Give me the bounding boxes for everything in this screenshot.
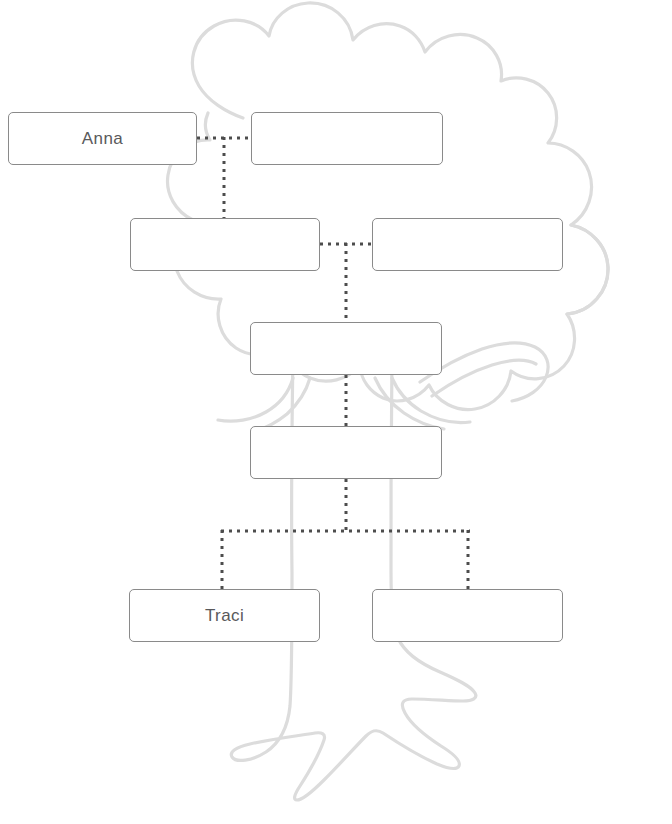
tree-branch-3-icon bbox=[392, 378, 470, 423]
name-box-gen2-right[interactable] bbox=[372, 218, 563, 271]
tree-branch-4-icon bbox=[375, 378, 444, 429]
name-box-label: Anna bbox=[82, 130, 123, 147]
tree-canopy-right-lobe-icon bbox=[567, 225, 608, 314]
name-box-label: Traci bbox=[205, 607, 244, 624]
tree-branch-2-icon bbox=[252, 378, 310, 432]
name-box-gen3-center[interactable] bbox=[250, 322, 442, 375]
tree-branch-6-icon bbox=[432, 360, 536, 396]
name-box-gen4-center[interactable] bbox=[250, 426, 442, 479]
name-box-gen1-left[interactable]: Anna bbox=[8, 112, 197, 165]
tree-branch-1-icon bbox=[218, 378, 293, 421]
name-box-gen2-left[interactable] bbox=[130, 218, 320, 271]
name-box-gen1-right[interactable] bbox=[251, 112, 443, 165]
name-box-gen5-right[interactable] bbox=[372, 589, 563, 642]
name-box-gen5-left[interactable]: Traci bbox=[129, 589, 320, 642]
family-tree-worksheet: Anna Traci bbox=[0, 0, 672, 824]
tree-trunk-left-icon bbox=[231, 352, 476, 800]
